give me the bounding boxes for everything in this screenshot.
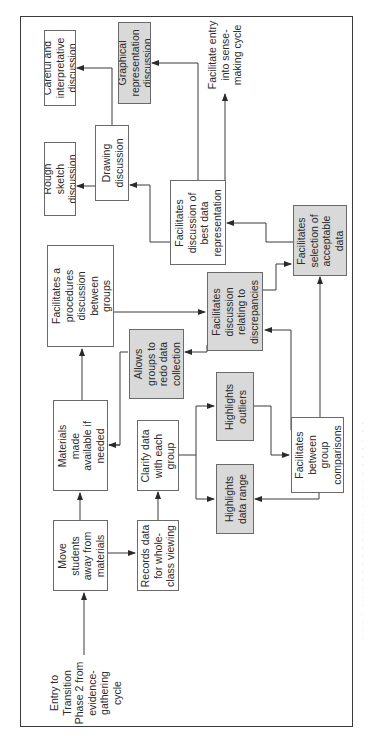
clarify-data-node: Clarify data with each group xyxy=(137,420,179,491)
discrepancies-discussion-node: Facilitates discussion relating to discr… xyxy=(207,272,263,351)
procedures-discussion-node: Facilitates a procedures discussion betw… xyxy=(47,245,114,347)
node-label: Careful and interpretative discussion xyxy=(44,38,76,99)
exit-label: Facilitate entry into sense- making cycl… xyxy=(202,18,248,92)
diagram-frame xyxy=(20,16,353,727)
entry-label: Entry to Transition Phase 2 from evidenc… xyxy=(42,658,128,728)
highlights-outliers-node: Highlights outliers xyxy=(216,372,254,441)
node-label: Records data for whole- class viewing xyxy=(139,524,177,586)
node-label: Facilitates discussion of best data repr… xyxy=(173,189,223,256)
rough-sketch-discussion-node: Rough sketch discussion xyxy=(44,142,76,216)
materials-available-node: Materials made available if needed xyxy=(53,400,108,491)
entry-text: Entry to Transition Phase 2 from evidenc… xyxy=(48,662,123,724)
acceptable-data-node: Facilitates selection of acceptable data xyxy=(293,205,347,276)
move-students-node: Move students away from materials xyxy=(53,520,108,591)
node-label: Rough sketch discussion xyxy=(44,154,76,203)
best-data-representation-node: Facilitates discussion of best data repr… xyxy=(170,180,226,265)
caption-dots: · · · · · · · · · · · · · · · · · · · · … xyxy=(357,420,370,640)
redo-data-collection-node: Allows groups to redo data collection xyxy=(129,329,184,399)
node-label: Facilitates a procedures discussion betw… xyxy=(49,268,112,324)
figure-caption-faded: · · · · · · · · · · · · · · · · · · · · … xyxy=(357,330,369,730)
node-label: Highlights data range xyxy=(223,474,248,524)
records-data-node: Records data for whole- class viewing xyxy=(137,520,179,591)
node-label: Highlights outliers xyxy=(223,383,248,429)
node-label: Allows groups to redo data collection xyxy=(132,342,182,386)
node-label: Clarify data with each group xyxy=(139,429,177,482)
node-label: Materials made available if needed xyxy=(56,421,106,471)
group-comparisons-node: Facilitates between group comparisons xyxy=(291,417,344,493)
careful-interpretative-discussion-node: Careful and interpretative discussion xyxy=(44,30,76,106)
drawing-discussion-node: Drawing discussion xyxy=(95,125,129,201)
graphical-representation-discussion-node: Graphical representation discussion xyxy=(118,22,151,104)
node-label: Graphical representation discussion xyxy=(118,29,151,96)
node-label: Move students away from materials xyxy=(56,531,106,579)
node-label: Facilitates selection of acceptable data xyxy=(295,214,345,267)
node-label: Drawing discussion xyxy=(100,138,125,187)
node-label: Facilitates between group comparisons xyxy=(293,425,343,485)
exit-text: Facilitate entry into sense- making cycl… xyxy=(206,21,244,89)
node-label: Facilitates discussion relating to discr… xyxy=(210,279,260,343)
highlights-data-range-node: Highlights data range xyxy=(216,464,254,534)
flow-diagram: Careful and interpretative discussion Ro… xyxy=(0,0,373,745)
